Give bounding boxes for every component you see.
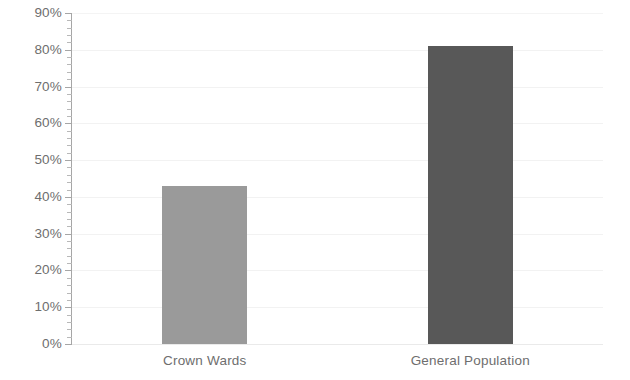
x-axis-label-general-population: General Population <box>411 353 530 368</box>
bar-chart: 0%10%20%30%40%50%60%70%80%90% Crown Ward… <box>0 0 630 380</box>
x-axis-tick-labels: Crown WardsGeneral Population <box>0 0 630 380</box>
x-axis-label-crown-wards: Crown Wards <box>163 353 246 368</box>
